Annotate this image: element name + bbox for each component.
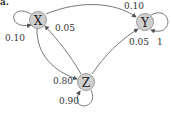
label-z-y: 0.05: [129, 37, 149, 47]
label-x-x: 0.10: [5, 33, 25, 43]
edge-x-y: [46, 5, 136, 17]
node-y-label: Y: [140, 16, 150, 30]
node-y: Y: [137, 14, 154, 31]
edge-z-x: [45, 26, 81, 74]
label-z-x: 0.05: [55, 23, 75, 33]
node-z: Z: [78, 74, 95, 91]
markov-chain-diagram: a. X Y Z 0.10 0.10 0.80 1 0.05 0.05 0.90: [0, 0, 171, 113]
label-y-y: 1: [157, 37, 163, 47]
node-x-label: X: [34, 14, 43, 28]
edge-x-z: [37, 28, 77, 79]
panel-label: a.: [0, 0, 9, 7]
label-x-y: 0.10: [124, 1, 144, 11]
label-x-z: 0.80: [53, 76, 73, 86]
label-z-z: 0.90: [59, 96, 79, 106]
node-x: X: [30, 12, 47, 29]
edge-z-z: [77, 90, 92, 106]
edge-z-y: [92, 29, 138, 74]
edge-x-x: [14, 11, 31, 26]
node-z-label: Z: [82, 76, 90, 90]
